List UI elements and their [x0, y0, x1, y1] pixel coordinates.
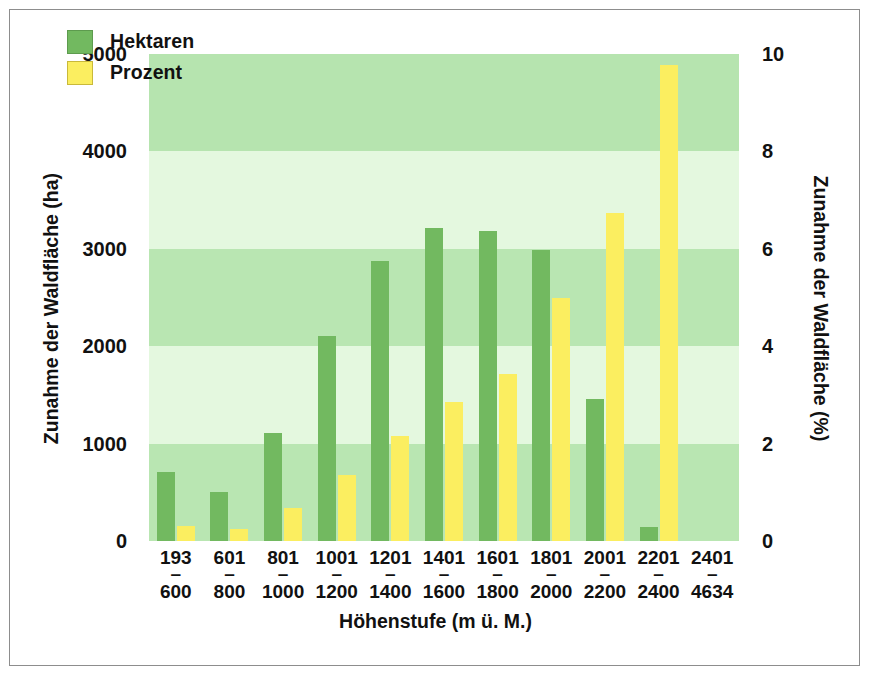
bar-group: [578, 54, 632, 541]
y-axis-left-title: Zunahme der Waldfläche (ha): [40, 99, 63, 519]
legend-swatch-green-icon: [67, 30, 93, 54]
y-axis-right-tick-label: 8: [762, 140, 773, 163]
category-range-end: 2400: [628, 582, 690, 601]
bar-hektaren: [210, 492, 228, 541]
bar-hektaren: [157, 472, 175, 541]
bar-group: [471, 54, 525, 541]
y-axis-right-title: Zunahme der Waldfläche (%): [809, 99, 832, 519]
bar-group: [310, 54, 364, 541]
y-axis-right-tick-label: 4: [762, 335, 773, 358]
category-range-end: 800: [199, 582, 261, 601]
plot-area: [149, 54, 739, 541]
bar-group: [417, 54, 471, 541]
category-range-end: 2200: [574, 582, 636, 601]
category-range-end: 2000: [520, 582, 582, 601]
x-axis-category-label: 2001–2200: [574, 548, 636, 601]
bar-hektaren: [425, 228, 443, 541]
bar-prozent: [338, 475, 356, 541]
bar-group: [364, 54, 418, 541]
bar-prozent: [391, 436, 409, 541]
category-range-end: 1600: [413, 582, 475, 601]
y-axis-left-tick-label: 0: [116, 530, 127, 553]
x-axis-category-label: 1601–1800: [467, 548, 529, 601]
y-axis-left-tick-label: 4000: [83, 140, 128, 163]
bar-hektaren: [640, 527, 658, 541]
category-range-end: 600: [145, 582, 207, 601]
x-axis-category-label: 1201–1400: [360, 548, 422, 601]
legend-label-hektaren: Hektaren: [110, 30, 194, 53]
bar-prozent: [552, 298, 570, 541]
bar-prozent: [284, 508, 302, 541]
category-range-dash: –: [628, 567, 690, 581]
y-axis-left-tick-label: 2000: [83, 335, 128, 358]
bar-prozent: [177, 526, 195, 541]
y-axis-left-ticks: 500040003000200010000: [10, 54, 139, 541]
bar-hektaren: [479, 231, 497, 541]
x-axis-category-label: 2201–2400: [628, 548, 690, 601]
category-range-dash: –: [145, 567, 207, 581]
category-range-dash: –: [360, 567, 422, 581]
category-range-end: 1200: [306, 582, 368, 601]
category-range-dash: –: [199, 567, 261, 581]
bar-hektaren: [532, 250, 550, 541]
x-axis-category-label: 1401–1600: [413, 548, 475, 601]
y-axis-right-tick-label: 0: [762, 530, 773, 553]
legend-item-prozent: Prozent: [67, 57, 194, 88]
category-range-end: 1400: [360, 582, 422, 601]
category-range-end: 1000: [252, 582, 314, 601]
y-axis-right-tick-label: 6: [762, 237, 773, 260]
bar-series-container: [149, 54, 739, 541]
bar-group: [256, 54, 310, 541]
category-range-dash: –: [520, 567, 582, 581]
bar-hektaren: [586, 399, 604, 541]
y-axis-right-ticks: 1086420: [750, 54, 810, 541]
legend-item-hektaren: Hektaren: [67, 26, 194, 57]
x-axis-category-label: 2401–4634: [681, 548, 743, 601]
category-range-end: 4634: [681, 582, 743, 601]
x-axis-category-label: 801–1000: [252, 548, 314, 601]
category-range-dash: –: [467, 567, 529, 581]
bar-prozent: [230, 529, 248, 541]
category-range-end: 1800: [467, 582, 529, 601]
bar-hektaren: [318, 336, 336, 541]
bar-prozent: [660, 65, 678, 541]
bar-prozent: [499, 374, 517, 541]
bar-group: [203, 54, 257, 541]
bar-hektaren: [264, 433, 282, 541]
bar-prozent: [445, 402, 463, 541]
x-axis-category-label: 601–800: [199, 548, 261, 601]
category-range-dash: –: [681, 567, 743, 581]
category-range-dash: –: [574, 567, 636, 581]
bar-hektaren: [371, 261, 389, 542]
category-range-dash: –: [306, 567, 368, 581]
chart-legend: Hektaren Prozent: [67, 26, 194, 88]
y-axis-left-tick-label: 3000: [83, 237, 128, 260]
category-range-dash: –: [252, 567, 314, 581]
bar-group: [524, 54, 578, 541]
legend-swatch-yellow-icon: [67, 61, 93, 85]
chart-frame: 500040003000200010000 1086420 193–600601…: [9, 9, 860, 666]
x-axis-title: Höhenstufe (m ü. M.): [10, 610, 861, 633]
bar-prozent: [606, 213, 624, 541]
y-axis-right-tick-label: 10: [762, 43, 784, 66]
legend-label-prozent: Prozent: [110, 61, 182, 84]
y-axis-right-tick-label: 2: [762, 432, 773, 455]
x-axis-category-label: 1001–1200: [306, 548, 368, 601]
y-axis-left-tick-label: 1000: [83, 432, 128, 455]
x-axis-category-label: 1801–2000: [520, 548, 582, 601]
category-range-dash: –: [413, 567, 475, 581]
bar-group: [632, 54, 686, 541]
x-axis-category-label: 193–600: [145, 548, 207, 601]
bar-group: [149, 54, 203, 541]
x-axis-category-labels: 193–600601–800801–10001001–12001201–1400…: [149, 548, 739, 608]
bar-group: [685, 54, 739, 541]
